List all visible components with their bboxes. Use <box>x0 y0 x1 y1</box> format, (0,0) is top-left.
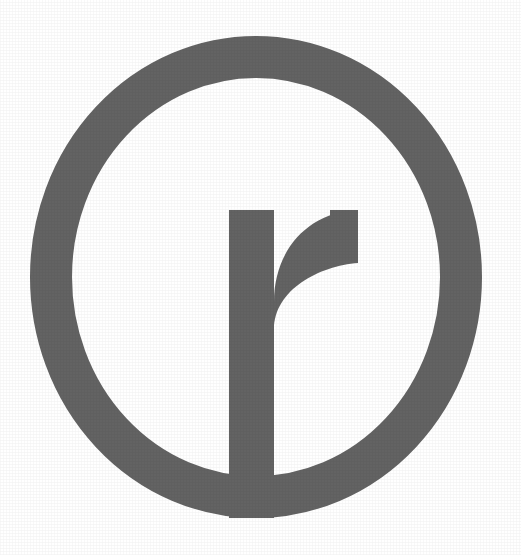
logo-canvas: Lowercase letter r enclosed in a circle … <box>0 0 521 555</box>
letter-r-arm-terminal <box>330 210 358 263</box>
letter-r-stem <box>229 210 274 518</box>
circled-r-logo-icon: Lowercase letter r enclosed in a circle … <box>0 0 521 555</box>
